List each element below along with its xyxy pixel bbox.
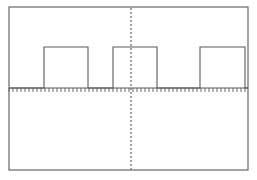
axis-tick-marks [9,88,245,92]
waveform-chart [0,0,257,180]
waveform-trace [9,47,248,88]
oscilloscope-display [0,0,257,180]
